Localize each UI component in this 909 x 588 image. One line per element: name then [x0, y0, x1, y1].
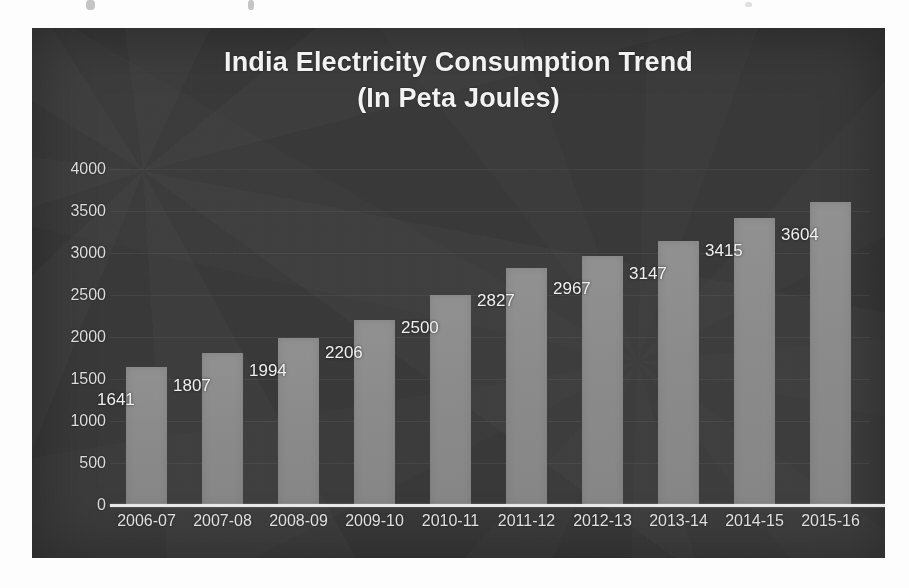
- bar-value-label: 2206: [325, 344, 363, 361]
- bar-value-label: 2967: [553, 280, 591, 297]
- plot-area: 40003500300025002000150010005000 1641180…: [32, 28, 885, 558]
- page-canvas: India Electricity Consumption Trend (In …: [0, 0, 909, 588]
- x-axis-tick-label: 2015-16: [793, 512, 869, 530]
- y-axis-tick-label: 1500: [34, 371, 106, 387]
- bar[interactable]: [810, 202, 851, 505]
- y-axis-tick-label: 2000: [34, 329, 106, 345]
- y-axis-tick-label: 1000: [34, 413, 106, 429]
- bar-value-label: 2827: [477, 292, 515, 309]
- x-axis-tick-label: 2014-15: [717, 512, 793, 530]
- bar-value-label: 3415: [705, 242, 743, 259]
- y-axis-tick-label: 3500: [34, 203, 106, 219]
- x-axis-tick-label: 2012-13: [565, 512, 641, 530]
- x-axis-tick-label: 2008-09: [261, 512, 337, 530]
- bar[interactable]: [734, 218, 775, 505]
- y-axis-tick-label: 0: [34, 497, 106, 513]
- scan-artifact: [745, 2, 752, 7]
- gridline: [110, 169, 870, 170]
- x-axis-tick-label: 2009-10: [337, 512, 413, 530]
- bar-value-label: 2500: [401, 319, 439, 336]
- x-axis-tick-label: 2006-07: [109, 512, 185, 530]
- bar-value-label: 1641: [97, 391, 135, 408]
- bar-value-label: 1994: [249, 362, 287, 379]
- chart-panel: India Electricity Consumption Trend (In …: [32, 28, 885, 558]
- scan-artifact: [248, 0, 254, 10]
- bar-value-label: 3604: [781, 226, 819, 243]
- y-axis-tick-label: 2500: [34, 287, 106, 303]
- scan-artifact: [86, 0, 95, 10]
- x-axis-tick-label: 2013-14: [641, 512, 717, 530]
- bar-value-label: 1807: [173, 377, 211, 394]
- x-axis-tick-label: 2007-08: [185, 512, 261, 530]
- y-axis-tick-label: 3000: [34, 245, 106, 261]
- bar[interactable]: [126, 367, 167, 505]
- x-axis-tick-label: 2010-11: [413, 512, 489, 530]
- gridline: [110, 211, 870, 212]
- y-axis-tick-label: 4000: [34, 161, 106, 177]
- x-axis-line: [110, 504, 885, 507]
- y-axis-tick-label: 500: [34, 455, 106, 471]
- bar-value-label: 3147: [629, 265, 667, 282]
- x-axis-tick-label: 2011-12: [489, 512, 565, 530]
